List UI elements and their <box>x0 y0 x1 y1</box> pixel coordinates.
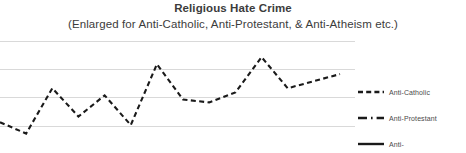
chart-title-block: Religious Hate Crime (Enlarged for Anti-… <box>0 1 466 33</box>
legend-marker-dash-dot-icon <box>357 113 385 123</box>
legend-item-anti[interactable]: Anti- <box>357 136 466 152</box>
legend-item-anti-catholic[interactable]: Anti-Catholic <box>357 84 466 100</box>
legend-marker-solid-icon <box>357 139 385 149</box>
chart-figure: Religious Hate Crime (Enlarged for Anti-… <box>0 0 466 153</box>
chart-legend: Anti-Catholic Anti-Protestant Anti- <box>357 84 466 153</box>
legend-label: Anti-Catholic <box>385 89 430 96</box>
legend-item-anti-protestant[interactable]: Anti-Protestant <box>357 110 466 126</box>
legend-marker-dashed-icon <box>357 87 385 97</box>
legend-label: Anti-Protestant <box>385 115 437 122</box>
series-line-anti-catholic <box>0 57 340 133</box>
chart-subtitle: (Enlarged for Anti-Catholic, Anti-Protes… <box>0 16 466 33</box>
page-title: Religious Hate Crime <box>0 1 466 16</box>
legend-label: Anti- <box>385 141 404 148</box>
